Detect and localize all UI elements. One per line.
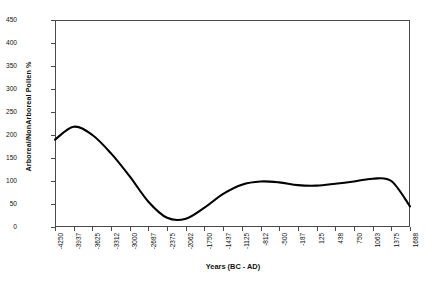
x-tick-mark <box>298 227 299 231</box>
y-tick-label: 200 <box>0 132 17 139</box>
x-tick-label: -3937 <box>76 233 82 249</box>
x-tick-label: -3000 <box>132 233 138 249</box>
x-tick-label: -187 <box>300 233 306 246</box>
x-tick-mark <box>279 227 280 231</box>
x-tick-mark <box>223 227 224 231</box>
pollen-line-chart: Arboreal/NonArboreal Pollen % 0501001502… <box>0 0 435 284</box>
x-tick-mark <box>92 227 93 231</box>
x-tick-mark <box>354 227 355 231</box>
y-tick-mark <box>51 112 55 113</box>
x-tick-label: 1063 <box>375 233 381 247</box>
y-tick-mark <box>51 181 55 182</box>
x-tick-mark <box>186 227 187 231</box>
x-tick-mark <box>410 227 411 231</box>
x-tick-label: 750 <box>357 233 363 244</box>
x-tick-mark <box>148 227 149 231</box>
y-tick-mark <box>51 204 55 205</box>
x-tick-label: -2687 <box>151 233 157 249</box>
x-tick-label: 1375 <box>394 233 400 247</box>
x-tick-label: -2375 <box>170 233 176 249</box>
x-tick-label: -1437 <box>226 233 232 249</box>
x-tick-mark <box>111 227 112 231</box>
x-tick-mark <box>335 227 336 231</box>
y-tick-label: 350 <box>0 63 17 70</box>
x-tick-mark <box>167 227 168 231</box>
x-tick-label: -1125 <box>244 233 250 249</box>
y-tick-label: 250 <box>0 109 17 116</box>
x-tick-mark <box>55 227 56 231</box>
x-tick-mark <box>204 227 205 231</box>
y-tick-label: 150 <box>0 155 17 162</box>
x-tick-mark <box>391 227 392 231</box>
x-tick-label: -1750 <box>207 233 213 249</box>
x-tick-label: 125 <box>319 233 325 244</box>
y-tick-label: 50 <box>0 201 17 208</box>
x-tick-label: 438 <box>338 233 344 244</box>
y-tick-label: 450 <box>0 17 17 24</box>
y-tick-mark <box>51 135 55 136</box>
x-tick-mark <box>130 227 131 231</box>
y-tick-label: 0 <box>0 224 17 231</box>
y-tick-label: 300 <box>0 86 17 93</box>
data-line-layer <box>55 20 410 227</box>
x-tick-mark <box>74 227 75 231</box>
x-tick-mark <box>261 227 262 231</box>
y-axis-title: Arboreal/NonArboreal Pollen % <box>24 27 33 207</box>
y-tick-mark <box>51 158 55 159</box>
x-tick-label: 1688 <box>413 233 419 247</box>
x-tick-label: -500 <box>282 233 288 246</box>
x-tick-mark <box>317 227 318 231</box>
y-tick-mark <box>51 20 55 21</box>
y-tick-label: 100 <box>0 178 17 185</box>
x-tick-label: -4250 <box>58 233 64 249</box>
y-tick-label: 400 <box>0 40 17 47</box>
x-tick-label: -812 <box>263 233 269 246</box>
y-tick-mark <box>51 43 55 44</box>
x-tick-mark <box>373 227 374 231</box>
x-tick-label: -3625 <box>95 233 101 249</box>
series-line-arboreal-pollen <box>55 127 410 220</box>
x-tick-mark <box>242 227 243 231</box>
x-tick-label: -2062 <box>188 233 194 249</box>
x-tick-label: -3312 <box>114 233 120 249</box>
y-tick-mark <box>51 66 55 67</box>
x-axis-title: Years (BC - AD) <box>55 262 411 271</box>
y-tick-mark <box>51 89 55 90</box>
